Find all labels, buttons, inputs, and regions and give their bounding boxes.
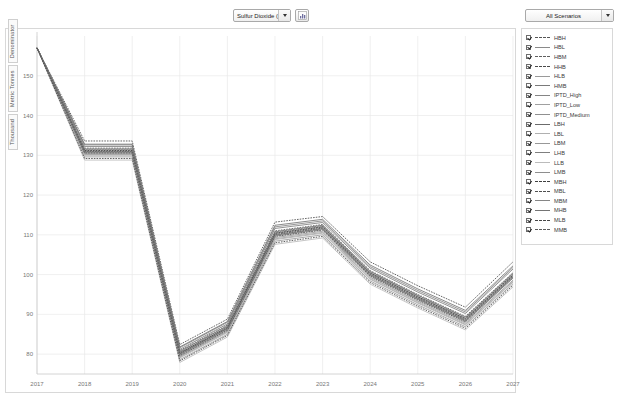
legend-label: LMB — [554, 169, 566, 175]
legend-item-iptd_low[interactable]: IPTD_Low — [526, 100, 609, 110]
legend-item-iptd_high[interactable]: IPTD_High — [526, 91, 609, 101]
legend-item-hhb[interactable]: HHB — [526, 62, 609, 72]
legend-label: MHB — [554, 207, 566, 213]
legend-item-mbh[interactable]: MBH — [526, 177, 609, 187]
legend-item-hmb[interactable]: HMB — [526, 81, 609, 91]
legend-item-iptd_medium[interactable]: IPTD_Medium — [526, 110, 609, 120]
legend-swatch-icon — [535, 54, 550, 60]
pollutant-select-value: Sulfur Dioxide (SO2) — [234, 13, 278, 19]
y-axis-title-part-0: Thousand — [8, 114, 18, 150]
legend-checkbox-hhb[interactable] — [526, 64, 531, 69]
legend-checkbox-mlb[interactable] — [526, 218, 531, 223]
chart-legend[interactable]: HBHHBLHBMHHBHLBHMBIPTD_HighIPTD_LowIPTD_… — [521, 28, 613, 245]
legend-checkbox-hbl[interactable] — [526, 45, 531, 50]
legend-swatch-icon — [535, 198, 550, 204]
legend-label: HBH — [554, 35, 566, 41]
legend-item-hlb[interactable]: HLB — [526, 71, 609, 81]
legend-swatch-icon — [535, 121, 550, 127]
chart-type-button[interactable] — [295, 9, 309, 22]
legend-label: HLB — [554, 73, 565, 79]
legend-item-lbh[interactable]: LBH — [526, 119, 609, 129]
legend-item-mlb[interactable]: MLB — [526, 215, 609, 225]
legend-item-mbm[interactable]: MBM — [526, 196, 609, 206]
y-axis-title: Thousand Metric Tonnes Denominator — [7, 10, 19, 150]
legend-swatch-icon — [535, 92, 550, 98]
legend-item-mmb[interactable]: MMB — [526, 225, 609, 235]
legend-swatch-icon — [535, 169, 550, 175]
legend-item-lhb[interactable]: LHB — [526, 148, 609, 158]
legend-checkbox-hbm[interactable] — [526, 54, 531, 59]
legend-item-llb[interactable]: LLB — [526, 158, 609, 168]
legend-label: HHB — [554, 64, 566, 70]
legend-swatch-icon — [535, 227, 550, 233]
legend-checkbox-lbm[interactable] — [526, 141, 531, 146]
legend-label: HBL — [554, 44, 565, 50]
legend-checkbox-mhb[interactable] — [526, 208, 531, 213]
legend-item-lbl[interactable]: LBL — [526, 129, 609, 139]
chart-icon — [298, 11, 307, 20]
legend-label: LHB — [554, 150, 565, 156]
legend-item-hbm[interactable]: HBM — [526, 52, 609, 62]
legend-swatch-icon — [535, 83, 550, 89]
legend-label: MMB — [554, 227, 567, 233]
legend-item-hbl[interactable]: HBL — [526, 43, 609, 53]
legend-label: HBM — [554, 54, 566, 60]
legend-label: IPTD_High — [554, 92, 581, 98]
legend-label: LBM — [554, 140, 566, 146]
scenario-select-value: All Scenarios — [526, 13, 601, 19]
legend-label: LLB — [554, 160, 564, 166]
legend-label: LBL — [554, 131, 564, 137]
legend-label: LBH — [554, 121, 565, 127]
legend-swatch-icon — [535, 112, 550, 118]
legend-checkbox-lbl[interactable] — [526, 131, 531, 136]
chevron-down-icon[interactable] — [278, 10, 290, 21]
legend-checkbox-hbh[interactable] — [526, 35, 531, 40]
legend-checkbox-lmb[interactable] — [526, 170, 531, 175]
legend-item-hbh[interactable]: HBH — [526, 33, 609, 43]
legend-checkbox-iptd_medium[interactable] — [526, 112, 531, 117]
legend-swatch-icon — [535, 102, 550, 108]
legend-swatch-icon — [535, 150, 550, 156]
legend-swatch-icon — [535, 140, 550, 146]
legend-label: MLB — [554, 217, 566, 223]
legend-checkbox-mbh[interactable] — [526, 179, 531, 184]
legend-checkbox-lhb[interactable] — [526, 150, 531, 155]
legend-swatch-icon — [535, 160, 550, 166]
legend-swatch-icon — [535, 73, 550, 79]
top-toolbar: Sulfur Dioxide (SO2) All Scenarios — [0, 0, 617, 30]
pollutant-select[interactable]: Sulfur Dioxide (SO2) — [233, 9, 291, 22]
y-axis-title-part-2: Denominator — [8, 19, 18, 63]
legend-checkbox-llb[interactable] — [526, 160, 531, 165]
legend-item-lmb[interactable]: LMB — [526, 167, 609, 177]
legend-item-mbl[interactable]: MBL — [526, 187, 609, 197]
legend-checkbox-mbl[interactable] — [526, 189, 531, 194]
legend-swatch-icon — [535, 179, 550, 185]
legend-label: MBM — [554, 198, 567, 204]
legend-swatch-icon — [535, 188, 550, 194]
legend-swatch-icon — [535, 35, 550, 41]
legend-checkbox-iptd_low[interactable] — [526, 102, 531, 107]
legend-item-mhb[interactable]: MHB — [526, 206, 609, 216]
legend-label: IPTD_Low — [554, 102, 580, 108]
legend-label: HMB — [554, 83, 566, 89]
legend-swatch-icon — [535, 207, 550, 213]
legend-swatch-icon — [535, 217, 550, 223]
legend-swatch-icon — [535, 131, 550, 137]
legend-checkbox-hmb[interactable] — [526, 83, 531, 88]
legend-checkbox-lbh[interactable] — [526, 122, 531, 127]
legend-swatch-icon — [535, 64, 550, 70]
legend-item-lbm[interactable]: LBM — [526, 139, 609, 149]
legend-checkbox-iptd_high[interactable] — [526, 93, 531, 98]
y-axis-title-part-1: Metric Tonnes — [8, 65, 18, 112]
legend-checkbox-mbm[interactable] — [526, 198, 531, 203]
legend-checkbox-hlb[interactable] — [526, 74, 531, 79]
legend-swatch-icon — [535, 44, 550, 50]
scenario-select[interactable]: All Scenarios — [525, 9, 614, 22]
legend-label: MBL — [554, 188, 566, 194]
legend-label: IPTD_Medium — [554, 112, 590, 118]
legend-label: MBH — [554, 179, 566, 185]
chevron-down-icon[interactable] — [601, 10, 613, 21]
legend-checkbox-mmb[interactable] — [526, 227, 531, 232]
chart-plot-area — [5, 28, 516, 393]
